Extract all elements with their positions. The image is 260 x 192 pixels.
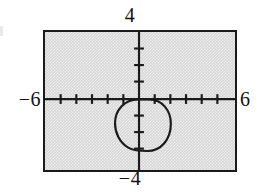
graph-screenshot: 4 −6 6 −4 <box>0 0 260 192</box>
plot-series <box>115 100 171 152</box>
plot-frame <box>43 30 237 172</box>
y-max-label: 4 <box>0 5 260 25</box>
x-max-label: 6 <box>240 89 260 109</box>
plot-canvas <box>45 32 235 170</box>
scan-artifact <box>0 26 3 36</box>
circle-curve <box>115 100 171 152</box>
x-min-label: −6 <box>5 89 41 109</box>
